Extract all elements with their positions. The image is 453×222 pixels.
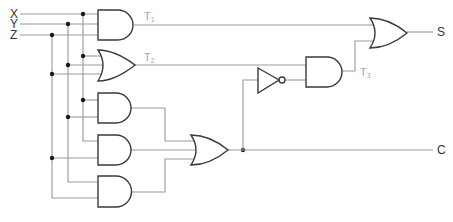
bus-x	[83, 14, 98, 141]
branch-wires	[52, 56, 103, 158]
internal-wires	[131, 25, 433, 192]
full-adder-circuit: X Y Z S C T1 T2 T3	[0, 0, 453, 222]
or-gate-3	[370, 18, 407, 48]
label-t1: T1	[144, 10, 155, 23]
and-gate-2	[98, 93, 131, 123]
wire-t3	[342, 41, 375, 71]
label-t2: T2	[144, 51, 155, 64]
input-wires	[20, 14, 98, 35]
and-gate-4	[98, 176, 132, 207]
or-gate-1	[98, 50, 135, 81]
wire-and2-to-or2	[131, 108, 194, 141]
junction-dots	[50, 12, 245, 160]
and-gate-3	[98, 135, 131, 165]
and-gate-5	[306, 57, 342, 87]
output-label-c: C	[437, 143, 446, 157]
not-bubble	[279, 77, 285, 83]
or-gate-2	[191, 135, 228, 165]
output-label-s: S	[437, 25, 445, 39]
wire-c-to-not	[243, 80, 258, 150]
bus-lines	[52, 14, 98, 198]
and-gate-1	[98, 10, 133, 40]
not-gate	[258, 68, 279, 93]
wire-and4-to-or2	[131, 159, 194, 192]
input-label-z: Z	[10, 28, 17, 42]
label-t3: T3	[360, 66, 371, 79]
